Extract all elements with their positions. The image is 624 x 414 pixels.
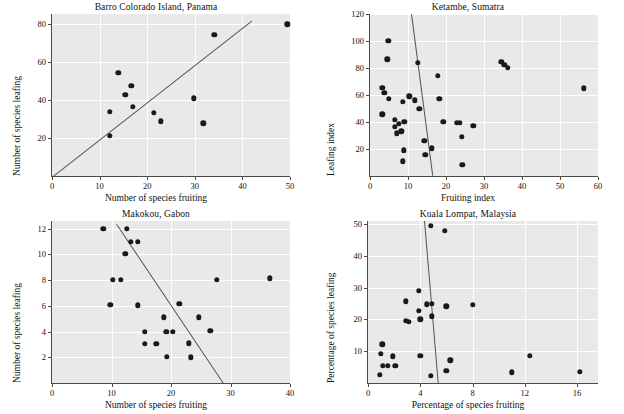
data-point (158, 118, 163, 123)
data-point (188, 355, 193, 360)
x-tick-mark (290, 177, 291, 180)
x-axis-line (51, 176, 290, 177)
plot-area (368, 221, 598, 383)
x-tick-mark (473, 384, 474, 387)
x-axis-line (367, 383, 598, 384)
gridline-horizontal (52, 357, 290, 358)
x-tick-label: 16 (573, 388, 582, 398)
y-tick-mark (366, 95, 369, 96)
data-point (457, 120, 462, 125)
x-tick-mark (560, 177, 561, 180)
regression-line (53, 21, 252, 177)
x-tick-mark (408, 177, 409, 180)
x-tick-label: 20 (143, 181, 152, 191)
x-tick-label: 20 (442, 181, 451, 191)
x-tick-label: 20 (167, 388, 176, 398)
gridline-horizontal (370, 95, 598, 96)
data-point (459, 134, 464, 139)
y-tick-mark (48, 229, 51, 230)
four-panel-scatter-figure: Barro Colorado Island, Panama 0102030405… (0, 0, 624, 414)
gridline-horizontal (52, 24, 290, 25)
y-tick-label: 20 (356, 144, 365, 154)
x-tick-label: 10 (404, 181, 413, 191)
data-point (196, 315, 201, 320)
y-axis-title: Leafing index (326, 123, 336, 176)
data-point (386, 96, 391, 101)
gridline-horizontal (368, 351, 598, 352)
data-point (212, 32, 217, 37)
data-point (401, 119, 406, 124)
data-point (460, 162, 465, 167)
data-point (124, 226, 129, 231)
x-axis-title: Percentage of species fruiting (312, 400, 624, 410)
x-tick-label: 0 (50, 388, 54, 398)
x-tick-label: 50 (556, 181, 565, 191)
y-tick-label: 80 (356, 63, 365, 73)
panel-kuala-lompat: Kuala Lompat, Malaysia 04812161020304050… (312, 207, 624, 414)
x-tick-mark (525, 384, 526, 387)
data-point (164, 329, 169, 334)
gridline-horizontal (368, 288, 598, 289)
y-tick-label: 6 (42, 301, 46, 311)
y-tick-mark (366, 122, 369, 123)
data-point (417, 106, 422, 111)
y-tick-label: 20 (38, 133, 47, 143)
data-point (527, 353, 532, 358)
y-tick-label: 60 (38, 57, 47, 67)
data-point (401, 148, 406, 153)
x-tick-label: 40 (286, 388, 295, 398)
y-tick-mark (48, 100, 51, 101)
data-point (115, 70, 120, 75)
gridline-horizontal (52, 229, 290, 230)
data-point (122, 251, 127, 256)
y-tick-label: 10 (38, 249, 47, 259)
data-point (201, 121, 206, 126)
x-tick-mark (147, 177, 148, 180)
y-tick-label: 40 (38, 95, 47, 105)
data-point (385, 363, 390, 368)
data-point (505, 65, 510, 70)
data-point (415, 60, 420, 65)
data-point (110, 277, 115, 282)
y-tick-label: 2 (42, 352, 46, 362)
x-tick-label: 50 (286, 181, 295, 191)
data-point (444, 368, 449, 373)
y-tick-mark (366, 149, 369, 150)
data-point (444, 303, 449, 308)
gridline-horizontal (52, 254, 290, 255)
y-tick-mark (366, 14, 369, 15)
x-tick-mark (484, 177, 485, 180)
x-tick-mark (368, 384, 369, 387)
x-tick-label: 30 (480, 181, 489, 191)
y-axis-line (51, 14, 52, 177)
x-axis-title: Number of species fruiting (0, 193, 312, 203)
y-axis-line (51, 221, 52, 384)
y-tick-label: 40 (356, 117, 365, 127)
panel-ketambe: Ketambe, Sumatra 01020304050602040608010… (312, 0, 624, 207)
gridline-vertical (100, 14, 101, 176)
data-point (422, 138, 427, 143)
y-axis-title: Number of species leafing (12, 76, 22, 176)
data-point (380, 342, 385, 347)
gridline-vertical (195, 14, 196, 176)
y-tick-mark (364, 224, 367, 225)
y-tick-mark (48, 306, 51, 307)
x-tick-mark (112, 384, 113, 387)
x-tick-label: 0 (50, 181, 54, 191)
x-tick-label: 30 (226, 388, 235, 398)
data-point (118, 277, 123, 282)
y-tick-mark (364, 256, 367, 257)
x-tick-label: 10 (95, 181, 104, 191)
y-tick-label: 10 (354, 346, 363, 356)
data-point (393, 363, 398, 368)
data-point (128, 239, 133, 244)
data-point (129, 83, 134, 88)
panel-barro-colorado-island: Barro Colorado Island, Panama 0102030405… (0, 0, 312, 207)
x-tick-mark (290, 384, 291, 387)
y-tick-mark (48, 24, 51, 25)
x-tick-mark (446, 177, 447, 180)
gridline-horizontal (368, 256, 598, 257)
gridline-horizontal (52, 280, 290, 281)
data-point (170, 329, 175, 334)
data-point (377, 372, 382, 377)
